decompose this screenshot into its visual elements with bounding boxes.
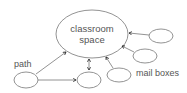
path-node — [14, 72, 38, 88]
classroom-space-node: classroom space — [56, 10, 128, 58]
bottom-node — [77, 72, 101, 88]
mailbox-node-3 — [107, 68, 131, 82]
classroom-label-line1: classroom — [70, 23, 113, 34]
edge-path-to-classroom — [36, 52, 66, 74]
mailbox-node-1 — [149, 29, 173, 43]
classroom-diagram: classroom space path mail boxes — [0, 0, 187, 93]
edge-mailbox2-to-classroom — [122, 46, 134, 52]
path-label: path — [14, 59, 32, 69]
edge-mailbox1-to-classroom — [129, 33, 149, 35]
mail-boxes-label: mail boxes — [136, 68, 180, 78]
edge-mailbox3-to-classroom — [106, 57, 113, 68]
mailbox-node-2 — [133, 49, 157, 63]
classroom-label-line2: space — [79, 34, 104, 45]
